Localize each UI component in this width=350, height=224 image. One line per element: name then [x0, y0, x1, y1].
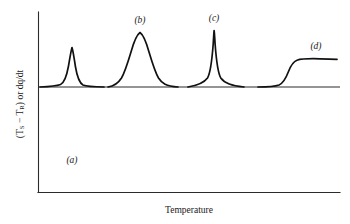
y-axis-title-mid: − T	[15, 110, 25, 126]
y-axis-title-suffix: ) or dq/dt	[15, 69, 26, 105]
curve-label-c: (c)	[209, 13, 220, 24]
curve-label-d: (d)	[310, 41, 321, 52]
y-axis-title-prefix: (T	[15, 129, 26, 138]
curve-b-broad-peak	[108, 33, 178, 88]
y-axis-title: (TS − TR) or dq/dt	[15, 69, 26, 138]
curve-d-sigmoidal-step	[258, 59, 337, 87]
thermal-analysis-figure: (a) (b) (c) (d) (TS − TR) or dq/dt Tempe…	[0, 0, 350, 224]
curve-label-a: (a)	[66, 155, 77, 166]
curve-c-sharp-spike	[188, 31, 244, 88]
curve-a-endothermic-peak	[40, 48, 104, 88]
plot-canvas: (a) (b) (c) (d) (TS − TR) or dq/dt Tempe…	[0, 0, 350, 224]
curve-label-b: (b)	[134, 15, 145, 26]
x-axis-title: Temperature	[165, 205, 213, 215]
